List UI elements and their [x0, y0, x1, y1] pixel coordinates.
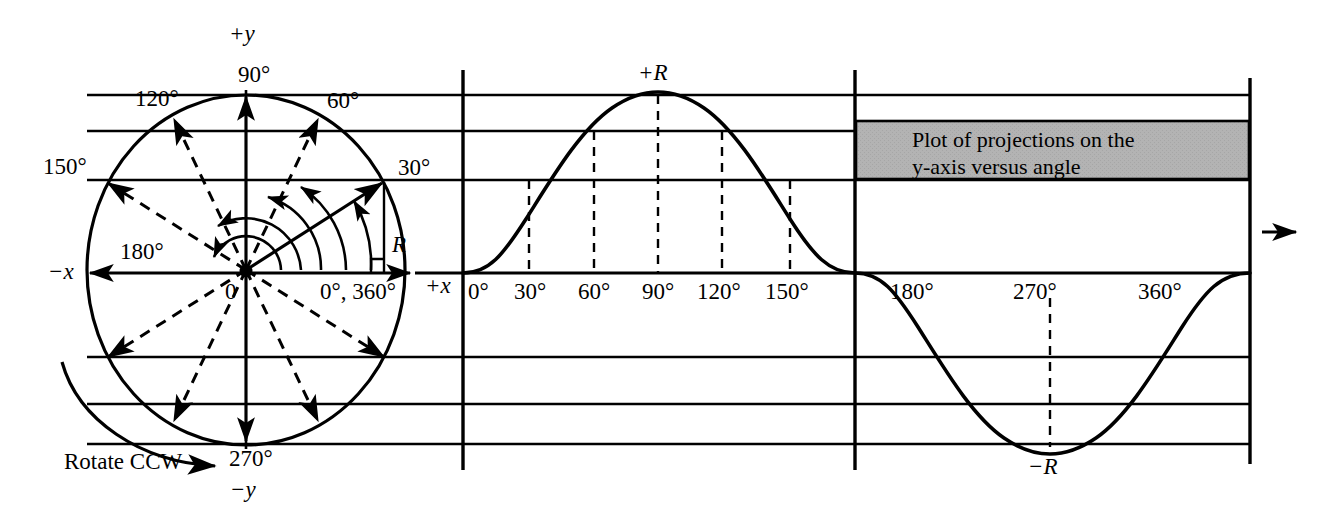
label-plus-R: +R	[638, 61, 668, 84]
arc-to-90	[268, 197, 321, 270]
xtick-label-30: 30°	[514, 280, 546, 303]
angle-sweep-arcs	[214, 187, 371, 270]
origin-dot	[240, 265, 253, 278]
label-minus-y: −y	[230, 478, 256, 501]
label-rotate-ccw: Rotate CCW	[64, 450, 182, 473]
circle-angle-label-120: 120°	[135, 87, 179, 110]
label-plus-x: +x	[425, 274, 451, 297]
callout-label: Plot of projections on the y-axis versus…	[912, 127, 1134, 181]
circle-angle-label-90: 90°	[238, 63, 270, 86]
label-zero-360: 0°, 360°	[320, 280, 396, 303]
xtick-label-360: 360°	[1138, 280, 1182, 303]
label-radius-R: R	[392, 233, 406, 256]
xtick-label-90: 90°	[642, 280, 674, 303]
circle-angle-label-270: 270°	[229, 447, 273, 470]
figure-canvas: +y −y −x +x 0 90° 120° 60° 150° 30° 180°…	[0, 0, 1320, 526]
xtick-label-150: 150°	[765, 280, 809, 303]
xtick-label-0: 0°	[468, 280, 489, 303]
xtick-label-60: 60°	[578, 280, 610, 303]
circle-angle-label-150: 150°	[43, 155, 87, 178]
label-minus-R: −R	[1028, 455, 1058, 478]
label-plus-y: +y	[229, 22, 255, 45]
label-origin: 0	[225, 280, 237, 303]
xtick-label-270: 270°	[1013, 280, 1057, 303]
right-angle-marker	[371, 259, 384, 273]
circle-angle-label-180: 180°	[120, 240, 164, 263]
xtick-label-120: 120°	[697, 280, 741, 303]
arc-to-60	[301, 187, 346, 270]
circle-angle-label-60: 60°	[327, 89, 359, 112]
circle-angle-label-30: 30°	[398, 156, 430, 179]
xtick-label-180: 180°	[890, 280, 934, 303]
arc-to-30	[354, 201, 371, 270]
label-minus-x: −x	[48, 260, 74, 283]
